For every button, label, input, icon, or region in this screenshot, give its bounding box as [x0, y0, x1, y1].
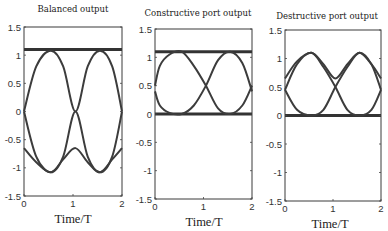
x-tick-label: 0	[152, 201, 157, 212]
y-tick-label: -0.5	[136, 137, 152, 148]
panel-constructive-port-output: Constructive port output Time/T 1.510.50…	[136, 8, 255, 229]
x-tick-label: 2	[119, 198, 124, 209]
y-tick-label: 0	[147, 109, 152, 120]
y-tick-label: -1	[274, 167, 282, 178]
y-tick-label: 1.5	[139, 24, 152, 35]
series-line	[24, 51, 122, 112]
y-tick-label: 1	[16, 50, 21, 61]
y-tick-label: -1.5	[136, 194, 152, 205]
x-tick-label: 2	[249, 201, 254, 212]
x-tick-label: 0	[21, 198, 26, 209]
panel-title: Constructive port output	[145, 8, 253, 18]
y-tick-label: 0.5	[139, 80, 152, 91]
y-tick-label: -0.5	[5, 134, 21, 145]
y-tick-label: -0.5	[266, 139, 282, 150]
plot-lines	[24, 50, 122, 173]
y-tick-label: -1	[13, 162, 21, 173]
x-axis-label: Time/T	[185, 215, 222, 229]
y-tick-label: -1.5	[5, 191, 21, 202]
x-tick-label: 0	[282, 203, 287, 214]
y-tick-label: 1	[277, 53, 282, 64]
panel-title: Balanced output	[38, 4, 109, 14]
x-tick-label: 2	[378, 203, 383, 214]
y-tick-label: 0.5	[269, 82, 282, 93]
plot-lines	[155, 51, 252, 115]
y-tick-label: 0.5	[8, 78, 21, 89]
panel-destructive-port-output: Destructive port output Time/T 1.510.50-…	[266, 11, 384, 231]
axes-box	[24, 27, 122, 196]
figure: Balanced output Time/T 1.510.50-0.5-1-1.…	[0, 0, 388, 231]
x-tick-label: 1	[330, 203, 335, 214]
y-tick-label: 0	[277, 110, 282, 121]
panel-balanced-output: Balanced output Time/T 1.510.50-0.5-1-1.…	[5, 4, 125, 226]
y-tick-label: 1	[147, 52, 152, 63]
y-tick-label: -1.5	[266, 196, 282, 207]
plot-lines	[285, 53, 381, 116]
x-tick-label: 1	[201, 201, 206, 212]
series-line	[285, 53, 381, 116]
x-axis-label: Time/T	[311, 217, 348, 231]
x-tick-label: 1	[70, 198, 75, 209]
panel-title: Destructive port output	[276, 11, 378, 21]
y-tick-label: 1.5	[8, 22, 21, 33]
y-tick-label: 1.5	[269, 25, 282, 36]
x-axis-label: Time/T	[54, 212, 91, 226]
y-tick-label: -1	[144, 165, 152, 176]
y-tick-label: 0	[16, 106, 21, 117]
series-line	[155, 51, 252, 114]
